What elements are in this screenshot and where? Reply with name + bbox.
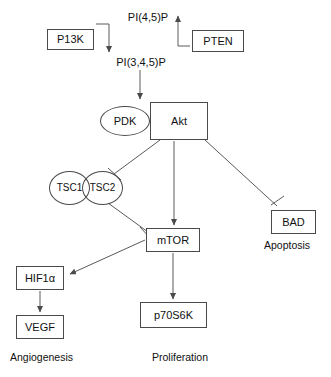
node-label-tsc2: TSC2 <box>90 183 116 193</box>
node-mtor[interactable]: mTOR <box>146 228 200 252</box>
node-label-vegf: VEGF <box>25 322 55 333</box>
caption-text-proliferation: Proliferation <box>152 351 208 363</box>
node-pi345p: PI(3,4,5)P <box>104 55 178 69</box>
caption-text-angiogenesis: Angiogenesis <box>10 351 73 363</box>
edge-pi3k-to-pi345p <box>96 24 109 52</box>
caption-apoptosis: Apoptosis <box>264 240 310 251</box>
node-label-p70s6k: p70S6K <box>154 310 193 321</box>
node-label-pi3k: P13K <box>57 34 84 45</box>
caption-text-apoptosis: Apoptosis <box>264 239 310 251</box>
node-pi45p: PI(4,5)P <box>117 10 179 24</box>
node-pi3k[interactable]: P13K <box>47 29 94 50</box>
node-hif1a[interactable]: HIF1α <box>16 266 64 290</box>
node-label-pi345p: PI(3,4,5)P <box>116 57 166 68</box>
node-label-bad: BAD <box>282 217 305 228</box>
node-label-pdk: PDK <box>114 116 137 127</box>
pathway-diagram: PI(4,5)P P13K PTEN PI(3,4,5)P PDK Akt TS… <box>0 0 331 377</box>
node-label-akt: Akt <box>171 116 187 127</box>
node-pten[interactable]: PTEN <box>192 30 244 52</box>
node-label-hif1a: HIF1α <box>25 273 55 284</box>
node-pdk[interactable]: PDK <box>100 106 150 136</box>
edge-mtor-to-hif1a <box>70 240 145 274</box>
edge-akt-to-tsc <box>114 140 160 174</box>
node-tsc2[interactable]: TSC2 <box>82 171 123 205</box>
node-label-tsc1: TSC1 <box>57 183 83 193</box>
edge-akt-to-bad <box>205 140 277 206</box>
node-bad[interactable]: BAD <box>271 210 316 234</box>
node-p70s6k[interactable]: p70S6K <box>140 302 207 328</box>
node-label-mtor: mTOR <box>157 235 189 246</box>
edge-tsc-to-mtor <box>108 203 148 232</box>
node-vegf[interactable]: VEGF <box>16 315 64 339</box>
node-akt[interactable]: Akt <box>150 102 208 140</box>
node-label-pten: PTEN <box>203 36 232 47</box>
caption-angiogenesis: Angiogenesis <box>10 352 73 363</box>
caption-proliferation: Proliferation <box>152 352 208 363</box>
edge-pten-to-pi45p <box>178 16 190 46</box>
tbar-akt-to-bad <box>271 196 284 205</box>
node-label-pi45p: PI(4,5)P <box>128 12 168 23</box>
